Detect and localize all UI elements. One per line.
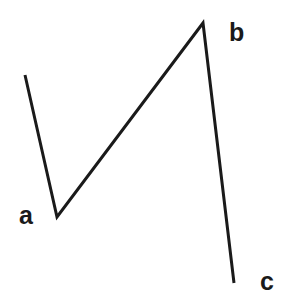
- zigzag-line: [25, 23, 234, 283]
- label-b: b: [229, 18, 244, 46]
- label-c: c: [260, 267, 274, 295]
- label-a: a: [19, 201, 34, 229]
- zigzag-diagram: a b c: [0, 0, 287, 295]
